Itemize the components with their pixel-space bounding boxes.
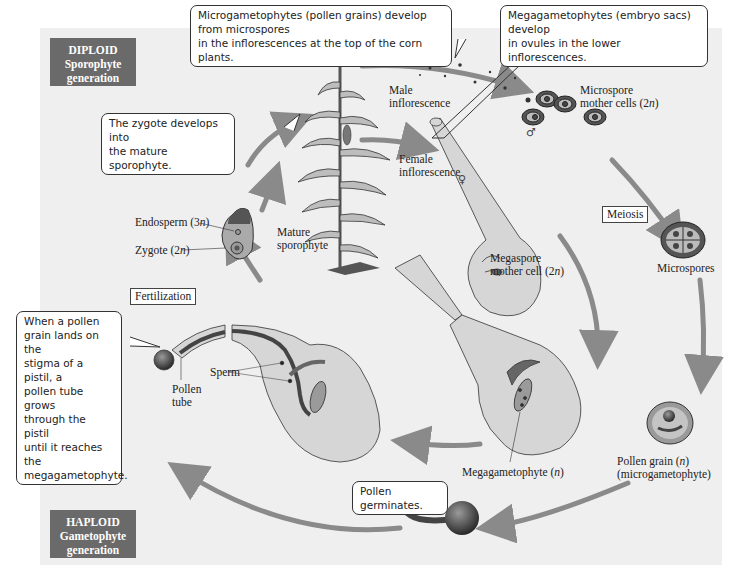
diploid-generation-box: DIPLOID Sporophyte generation <box>50 38 136 86</box>
pollen-grain <box>647 402 693 444</box>
label-pollen-tube: Pollen tube <box>172 383 201 409</box>
label-microspore-mother-cells: Microspore mother cells (2n) <box>580 84 659 110</box>
label-megaspore-mother-cell: Megaspore mother cell (2n) <box>490 252 564 278</box>
label-male-inflorescence: Male inflorescence <box>389 84 450 110</box>
callout-microgametophytes: Microgametophytes (pollen grains) develo… <box>190 5 452 67</box>
label-female-inflorescence: Female inflorescence <box>399 153 460 179</box>
male-symbol: ♂ <box>526 126 536 139</box>
label-pollen-grain: Pollen grain (n) (microgametophyte) <box>617 455 711 481</box>
female-symbol: ♀ <box>458 173 466 186</box>
meiosis-box: Meiosis <box>602 206 648 223</box>
label-sperm: Sperm <box>210 366 240 379</box>
label-megagametophyte: Megagametophyte (n) <box>462 466 564 479</box>
callout-megagametophytes: Megagametophytes (embryo sacs) develop i… <box>500 5 708 67</box>
microspore-tetrad <box>661 222 705 258</box>
callout-pollen-germinates: Pollen germinates. <box>352 481 448 515</box>
fertilization-box: Fertilization <box>130 288 196 305</box>
label-endosperm: Endosperm (3n) <box>135 216 209 229</box>
label-microspores: Microspores <box>657 262 715 275</box>
callout-pollen-tube-growth: When a pollen grain lands on the stigma … <box>16 311 122 485</box>
haploid-generation-box: HAPLOID Gametophyte generation <box>50 510 136 558</box>
female-pistil-top <box>430 118 541 316</box>
label-zygote: Zygote (2n) <box>135 244 190 257</box>
label-mature-sporophyte: Mature sporophyte <box>277 226 328 252</box>
callout-zygote-develops: The zygote develops into the mature spor… <box>101 113 235 175</box>
